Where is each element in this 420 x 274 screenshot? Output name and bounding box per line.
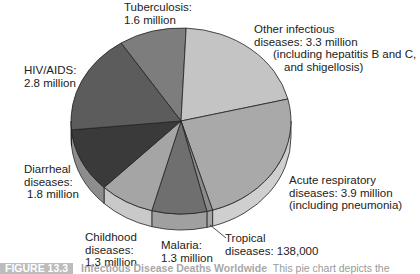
figure-tag: FIGURE 13.3: [0, 263, 73, 274]
figure-title: Infectious Disease Deaths Worldwide: [81, 263, 267, 274]
figure-caption: FIGURE 13.3Infectious Disease Deaths Wor…: [0, 263, 420, 274]
label-other-infectious: Other infectious diseases: 3.3 million (…: [254, 23, 416, 73]
label-diarrheal: Diarrheal diseases: 1.8 million: [24, 163, 79, 201]
label-hiv-aids: HIV/AIDS:2.8 million: [24, 64, 76, 89]
label-tuberculosis: Tuberculosis:1.6 million: [124, 1, 192, 26]
label-tropical: Tropicaldiseases: 138,000: [225, 232, 318, 257]
tropical-leader-line: [210, 225, 226, 238]
label-malaria: Malaria:1.3 million: [161, 239, 213, 264]
label-acute-respiratory: Acute respiratory diseases: 3.9 million …: [289, 174, 402, 212]
figure-text: This pie chart depicts the: [267, 263, 390, 274]
